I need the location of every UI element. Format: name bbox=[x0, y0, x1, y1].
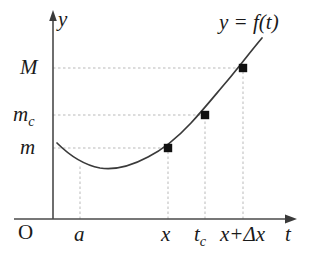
function-curve bbox=[57, 38, 262, 169]
x-tick-label-a: a bbox=[74, 224, 85, 245]
curve-equation-label: y = f(t) bbox=[219, 12, 279, 33]
x-tick-label-tc: tc bbox=[194, 224, 206, 248]
data-point-tc bbox=[201, 111, 209, 119]
origin-label: O bbox=[18, 222, 33, 243]
y-tick-label-m: m bbox=[20, 137, 35, 158]
y-tick-label-mc: mc bbox=[13, 104, 35, 128]
y-tick-label-M: M bbox=[20, 57, 38, 78]
y-axis-arrowhead bbox=[49, 10, 57, 21]
y-axis bbox=[49, 10, 57, 219]
x-tick-tc-subscript: c bbox=[200, 233, 206, 249]
data-point-x-plus-dx bbox=[239, 64, 247, 72]
x-tick-label-x: x bbox=[161, 224, 170, 245]
y-tick-mc-base: m bbox=[13, 102, 28, 126]
data-point-x bbox=[164, 144, 172, 152]
function-graph-figure: y t O y = f(t) M mc m a x tc x+Δx bbox=[0, 0, 311, 261]
horizontal-guide-lines bbox=[53, 68, 243, 148]
y-axis-label: y bbox=[58, 9, 67, 30]
y-tick-mc-subscript: c bbox=[28, 113, 34, 129]
x-axis-label: t bbox=[285, 224, 291, 245]
x-tick-label-x-plus-delta-x: x+Δx bbox=[220, 224, 265, 245]
